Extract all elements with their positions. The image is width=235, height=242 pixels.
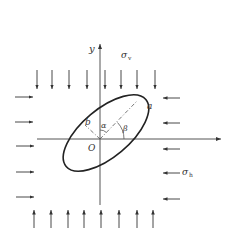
bottom-stress-arrows [34, 210, 153, 228]
alpha-label: α [101, 121, 107, 130]
right-stress-arrows [163, 98, 180, 199]
svg-text:σ: σ [121, 50, 128, 60]
semi-axes [85, 101, 137, 139]
semi-major-label: a [147, 101, 152, 111]
svg-text:v: v [127, 54, 132, 61]
origin-label: O [88, 143, 96, 153]
sigma-v-label: σ v [121, 50, 132, 61]
svg-text:h: h [189, 171, 193, 178]
svg-text:σ: σ [182, 167, 189, 177]
top-stress-arrows [37, 70, 155, 89]
stress-diagram: y O a b α β σ v σ h [0, 0, 235, 242]
semi-minor-label: b [85, 117, 91, 127]
ellipse [51, 81, 162, 185]
left-stress-arrows [15, 97, 34, 197]
sigma-h-label: σ h [182, 167, 193, 178]
y-axis-label: y [88, 43, 95, 54]
beta-label: β [122, 124, 128, 133]
